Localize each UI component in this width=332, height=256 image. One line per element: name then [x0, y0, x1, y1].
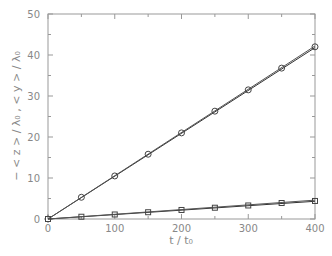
data-point-circle: [245, 87, 251, 93]
y-tick-labels: 01020304050: [27, 9, 40, 225]
y-tick-label: 0: [34, 214, 40, 225]
x-tick-label: 400: [305, 223, 324, 234]
x-tick-labels: 0100200300400: [45, 223, 325, 234]
axis-ticks: [48, 14, 315, 219]
y-tick-label: 20: [27, 132, 40, 143]
y-tick-label: 40: [27, 50, 40, 61]
data-series: [45, 44, 318, 222]
series-circles: [45, 44, 318, 222]
x-tick-label: 300: [239, 223, 258, 234]
x-tick-label: 0: [45, 223, 51, 234]
x-tick-label: 100: [105, 223, 124, 234]
y-tick-label: 50: [27, 9, 40, 20]
x-tick-label: 200: [172, 223, 191, 234]
y-tick-label: 10: [27, 173, 40, 184]
x-axis-title: t / t₀: [169, 234, 193, 247]
line-chart: 0100200300400 01020304050 t / t₀ − < z >…: [0, 0, 332, 256]
y-tick-label: 30: [27, 91, 40, 102]
plot-frame: [48, 14, 315, 219]
y-axis-title: − < z > / λ₀ , < y > / λ₀: [10, 51, 23, 181]
